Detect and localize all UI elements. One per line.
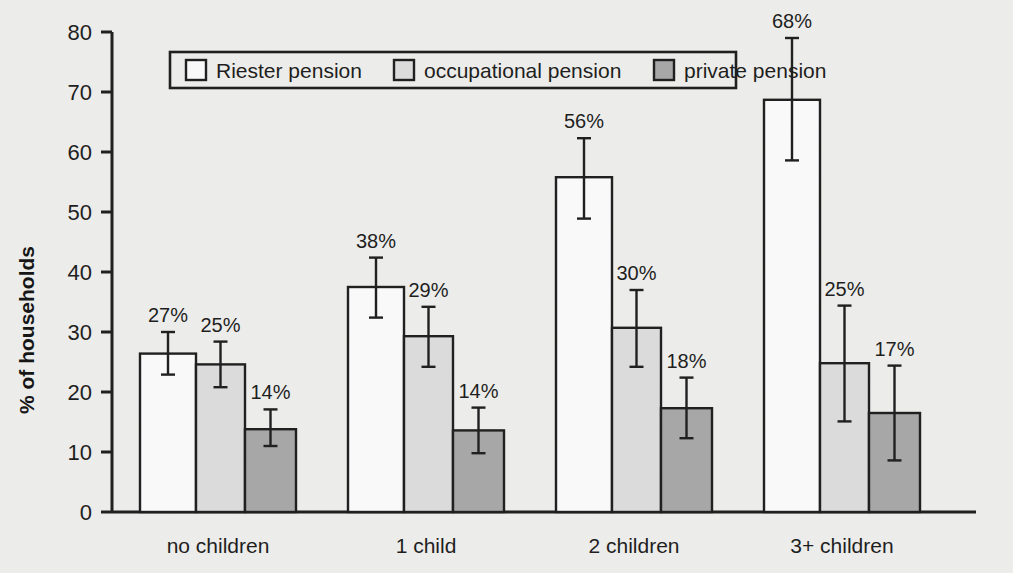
y-axis-title: % of households [15, 246, 38, 414]
y-axis-tick-label: 20 [68, 380, 92, 405]
bar [764, 100, 820, 512]
y-axis-tick-label: 50 [68, 200, 92, 225]
bar [140, 354, 196, 512]
x-axis-category-label: 1 child [396, 534, 457, 557]
chart-canvas: 01020304050607080 27%25%14%38%29%14%56%3… [0, 0, 1013, 573]
bar-value-label: 17% [874, 338, 914, 360]
y-axis-tick-label: 0 [80, 500, 92, 525]
bar-value-label: 68% [772, 10, 812, 32]
bar [556, 177, 612, 512]
bar-value-label: 56% [564, 110, 604, 132]
y-axis-title-label: % of households [15, 246, 38, 414]
legend-label: Riester pension [216, 59, 362, 82]
y-axis-tick-label: 60 [68, 140, 92, 165]
x-axis-category-label: no children [167, 534, 270, 557]
bar-value-label: 25% [824, 278, 864, 300]
x-axis-category-label: 3+ children [790, 534, 893, 557]
legend: Riester pensionoccupational pensionpriva… [170, 52, 826, 88]
bar-value-label: 18% [666, 350, 706, 372]
bar-value-label: 30% [616, 262, 656, 284]
legend-swatch [654, 60, 674, 80]
y-axis-tick-label: 10 [68, 440, 92, 465]
bar-value-label: 14% [458, 380, 498, 402]
y-axis-tick-label: 80 [68, 20, 92, 45]
bar-value-label: 38% [356, 230, 396, 252]
legend-label: private pension [684, 59, 826, 82]
legend-label: occupational pension [424, 59, 621, 82]
y-axis-tick-label: 70 [68, 80, 92, 105]
y-axis-tick-label: 40 [68, 260, 92, 285]
bar [348, 287, 404, 512]
bar-chart: 01020304050607080 27%25%14%38%29%14%56%3… [0, 0, 1013, 573]
bar-value-label: 25% [200, 314, 240, 336]
legend-swatch [394, 60, 414, 80]
y-axis-tick-label: 30 [68, 320, 92, 345]
x-axis-category-label: 2 children [588, 534, 679, 557]
bar-value-label: 27% [148, 304, 188, 326]
legend-swatch [186, 60, 206, 80]
bar-value-label: 14% [250, 381, 290, 403]
bar-value-label: 29% [408, 279, 448, 301]
